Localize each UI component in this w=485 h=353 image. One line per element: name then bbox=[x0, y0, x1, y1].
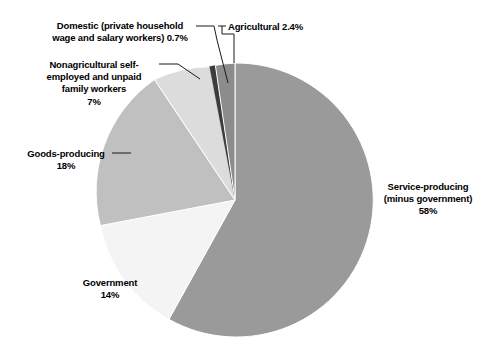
slice-label-goods-producing: Goods-producing 18% bbox=[6, 148, 126, 172]
slice-label-nonagricultural: Nonagricultural self- employed and unpai… bbox=[14, 59, 174, 108]
slice-label-agricultural: Agricultural 2.4% bbox=[228, 21, 338, 33]
slice-label-service-producing: Service-producing (minus government) 58% bbox=[372, 181, 484, 218]
slice-label-domestic: Domestic (private household wage and sal… bbox=[25, 20, 215, 44]
pie-chart-page: Domestic (private household wage and sal… bbox=[0, 0, 485, 353]
slice-label-government: Government 14% bbox=[45, 277, 175, 301]
